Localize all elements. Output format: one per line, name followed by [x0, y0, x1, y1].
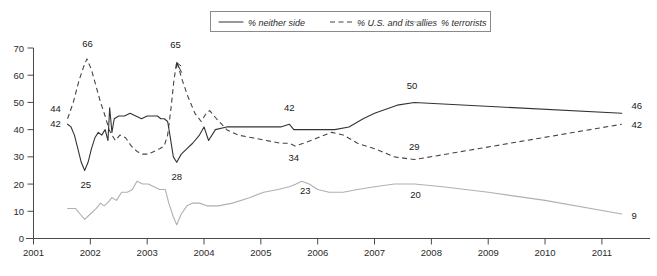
- x-tick-label-2010: 2010: [534, 247, 555, 258]
- x-tick-label-2009: 2009: [478, 247, 499, 258]
- chart-series: [68, 59, 622, 225]
- x-tick-label-2002: 2002: [80, 247, 101, 258]
- legend-label-neither-side: % neither side: [248, 18, 305, 28]
- y-tick-label-30: 30: [13, 151, 24, 162]
- y-tick-label-40: 40: [13, 124, 24, 135]
- line-chart: % neither side % U.S. and its allies % t…: [0, 0, 657, 276]
- y-tick-label-0: 0: [19, 233, 24, 244]
- legend-label-terrorists: % terrorists: [441, 18, 487, 28]
- chart-axes: 010203040506070 200120022003200420052006…: [13, 43, 650, 259]
- x-tick-label-2001: 2001: [23, 247, 44, 258]
- chart-container: % neither side % U.S. and its allies % t…: [0, 0, 657, 276]
- data-label-42: 42: [631, 119, 642, 130]
- y-tick-label-50: 50: [13, 97, 24, 108]
- data-label-66: 66: [82, 38, 93, 49]
- data-label-65: 65: [170, 39, 181, 50]
- series-line-neither-side: [68, 102, 622, 170]
- data-label-29: 29: [409, 141, 420, 152]
- x-tick-label-2006: 2006: [307, 247, 328, 258]
- data-label-20: 20: [410, 189, 421, 200]
- data-label-9: 9: [631, 210, 636, 221]
- x-tick-label-2003: 2003: [137, 247, 158, 258]
- y-tick-label-70: 70: [13, 43, 24, 54]
- x-tick-label-2007: 2007: [364, 247, 385, 258]
- data-label-46: 46: [631, 100, 642, 111]
- data-label-34: 34: [289, 152, 300, 163]
- y-tick-label-20: 20: [13, 179, 24, 190]
- annotation-arrow-65: [176, 63, 182, 73]
- data-label-23: 23: [300, 185, 311, 196]
- data-label-28: 28: [171, 171, 182, 182]
- y-tick-label-60: 60: [13, 70, 24, 81]
- chart-legend: % neither side % U.S. and its allies % t…: [211, 12, 491, 32]
- data-label-25: 25: [81, 179, 92, 190]
- data-label-50: 50: [407, 80, 418, 91]
- data-label-44: 44: [50, 103, 61, 114]
- series-line-terrorists: [68, 181, 622, 225]
- x-tick-label-2008: 2008: [421, 247, 442, 258]
- y-tick-label-10: 10: [13, 206, 24, 217]
- y-axis-ticks: 010203040506070: [13, 43, 33, 245]
- x-tick-label-2005: 2005: [250, 247, 271, 258]
- data-label-42: 42: [50, 118, 61, 129]
- x-axis-ticks: 2001200220032004200520062007200820092010…: [23, 239, 612, 259]
- x-tick-label-2011: 2011: [592, 247, 612, 258]
- x-tick-label-2004: 2004: [193, 247, 214, 258]
- data-label-42: 42: [284, 102, 295, 113]
- chart-data-labels: 44426625652842342350292046429: [50, 38, 642, 222]
